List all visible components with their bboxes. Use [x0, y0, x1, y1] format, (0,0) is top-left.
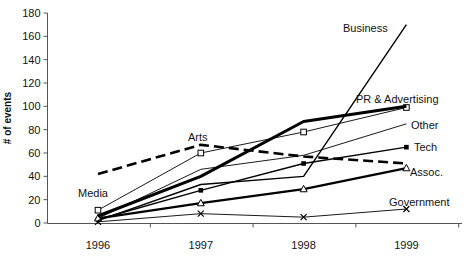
- series-label-government: Government: [389, 196, 450, 208]
- events-line-chart: 0204060801001201401601801996199719981999…: [0, 0, 472, 259]
- y-tick-label: 100: [22, 100, 40, 112]
- open-square-marker-media: [95, 207, 101, 213]
- y-tick-label: 0: [34, 217, 40, 229]
- open-square-marker-media: [301, 129, 307, 135]
- filled-square-marker-tech: [199, 188, 204, 193]
- series-line-media: [98, 108, 406, 211]
- y-tick-label: 140: [22, 54, 40, 66]
- series-line-assoc: [98, 168, 406, 218]
- filled-square-marker-tech: [404, 145, 409, 150]
- y-tick-label: 20: [28, 194, 40, 206]
- series-tech: [96, 145, 409, 222]
- series-government: [95, 206, 409, 225]
- x-tick-label-1998: 1998: [291, 239, 315, 251]
- series-line-business: [98, 25, 406, 221]
- series-label-tech: Tech: [414, 141, 437, 153]
- series-label-assoc: Assoc.: [410, 166, 443, 178]
- chart-image: 0204060801001201401601801996199719981999…: [0, 0, 472, 259]
- series-label-pr-advertising: PR & Advertising: [356, 93, 439, 105]
- y-axis-title: # of events: [2, 91, 13, 144]
- series-label-other: Other: [411, 119, 439, 131]
- series-label-arts: Arts: [188, 131, 208, 143]
- y-tick-label: 180: [22, 7, 40, 19]
- series-label-business: Business: [343, 22, 388, 34]
- y-tick-label: 60: [28, 147, 40, 159]
- y-tick-label: 80: [28, 124, 40, 136]
- series-line-tech: [98, 147, 406, 219]
- x-tick-label-1999: 1999: [394, 239, 418, 251]
- x-tick-label-1997: 1997: [189, 239, 213, 251]
- filled-square-marker-tech: [301, 161, 306, 166]
- y-tick-label: 160: [22, 30, 40, 42]
- open-square-marker-media: [198, 150, 204, 156]
- y-tick-label: 40: [28, 170, 40, 182]
- y-tick-label: 120: [22, 77, 40, 89]
- axes: 0204060801001201401601801996199719981999: [22, 7, 462, 251]
- series-business: [98, 25, 406, 221]
- series-label-media: Media: [78, 187, 109, 199]
- x-tick-label-1996: 1996: [86, 239, 110, 251]
